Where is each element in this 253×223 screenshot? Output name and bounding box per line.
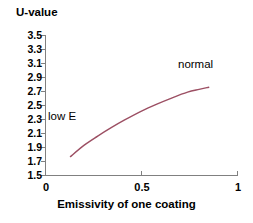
x-axis-tick-labels: 0 0.5 1 [0,0,253,223]
x-tick-label: 0 [43,182,49,193]
chart-container: U-value 3.5 3.3 [0,0,253,223]
annotation-low-e: low E [48,110,76,122]
annotation-normal: normal [178,58,213,70]
x-axis-title: Emissivity of one coating [0,198,253,210]
x-tick-label: 1 [235,182,241,193]
x-tick-label: 0.5 [134,182,149,193]
